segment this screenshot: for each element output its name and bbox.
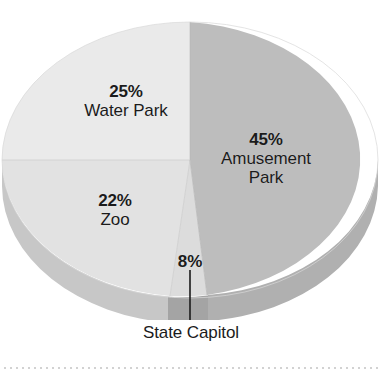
zoo-percent: 22% bbox=[56, 191, 174, 210]
slice-label-state-capitol-percent: 8% bbox=[145, 252, 235, 271]
amusement-park-name-line1: Amusement bbox=[196, 149, 336, 168]
slice-label-water-park: 25% Water Park bbox=[51, 82, 201, 120]
zoo-name: Zoo bbox=[56, 210, 174, 229]
slice-label-state-capitol-name: State Capitol bbox=[105, 323, 277, 342]
water-park-percent: 25% bbox=[51, 82, 201, 101]
slice-label-zoo: 22% Zoo bbox=[56, 191, 174, 229]
water-park-name: Water Park bbox=[51, 101, 201, 120]
slice-label-amusement-park: 45% Amusement Park bbox=[196, 130, 336, 187]
bottom-dotted-rule bbox=[4, 367, 378, 369]
pie-chart: 25% Water Park 45% Amusement Park 22% Zo… bbox=[0, 0, 382, 379]
amusement-park-percent: 45% bbox=[196, 130, 336, 149]
amusement-park-name-line2: Park bbox=[196, 168, 336, 187]
